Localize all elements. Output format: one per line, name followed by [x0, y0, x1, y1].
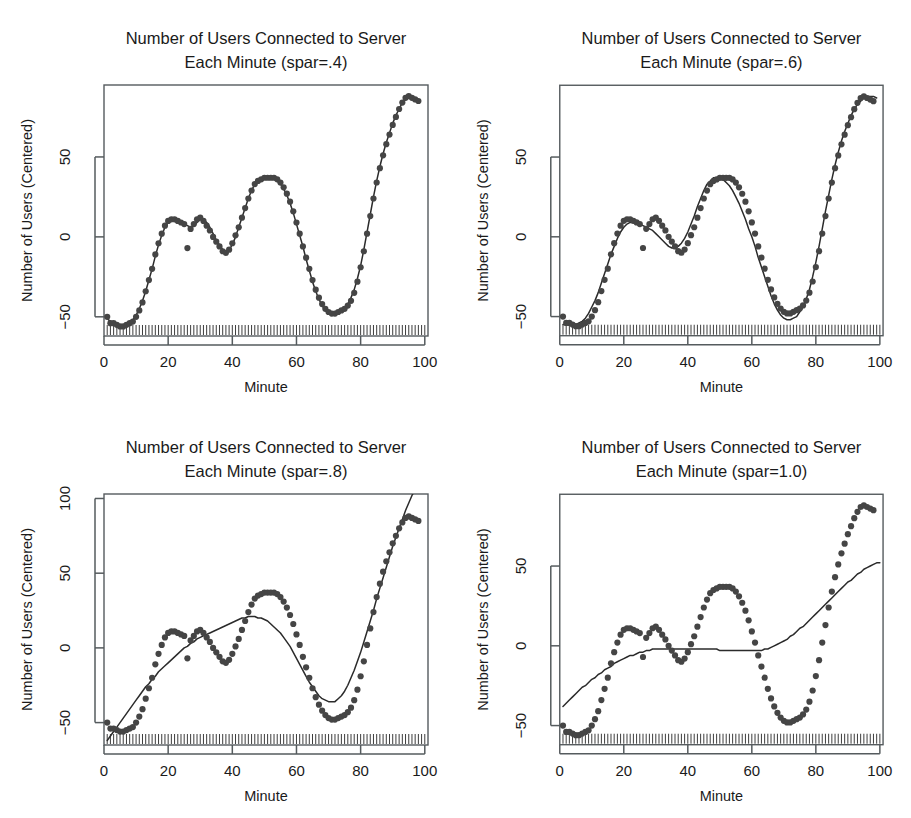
data-point [248, 601, 254, 607]
data-point [845, 122, 851, 128]
data-point [316, 295, 322, 301]
data-point [226, 247, 232, 253]
data-point [688, 232, 694, 238]
data-point [813, 264, 819, 270]
data-point [694, 624, 700, 630]
data-point [383, 141, 389, 147]
data-point [762, 675, 768, 681]
data-point [351, 697, 357, 703]
data-point [316, 702, 322, 708]
data-point [822, 213, 828, 219]
data-point [813, 673, 819, 679]
data-point [765, 686, 771, 692]
x-tick-label: 60 [288, 762, 305, 779]
data-point [829, 179, 835, 185]
y-tick-label: −50 [512, 713, 529, 738]
data-point [393, 533, 399, 539]
data-point [816, 657, 822, 663]
data-point [822, 622, 828, 628]
x-tick-label: 80 [808, 762, 825, 779]
data-point [688, 641, 694, 647]
chart-svg-1: Number of Users Connected to ServerEach … [456, 0, 911, 409]
data-point [146, 685, 152, 691]
y-tick-label: 50 [56, 565, 73, 582]
data-point [765, 277, 771, 283]
data-point [601, 277, 607, 283]
data-point [348, 705, 354, 711]
data-point [685, 649, 691, 655]
data-point [361, 658, 367, 664]
data-point [835, 152, 841, 158]
data-point [396, 525, 402, 531]
data-point [297, 642, 303, 648]
data-point [842, 132, 848, 138]
chart-title-line2: Each Minute (spar=.8) [185, 462, 348, 480]
x-tick-label: 100 [867, 762, 892, 779]
x-tick-label: 0 [556, 353, 564, 370]
x-tick-label: 80 [352, 353, 369, 370]
data-point [226, 657, 232, 663]
x-tick-label: 20 [615, 353, 632, 370]
data-point [739, 600, 745, 606]
data-point [605, 266, 611, 272]
data-point [605, 675, 611, 681]
data-point [284, 191, 290, 197]
y-tick-label: 50 [512, 558, 529, 575]
data-point [810, 278, 816, 284]
data-point [698, 614, 704, 620]
data-point [155, 240, 161, 246]
data-point [771, 294, 777, 300]
data-point [149, 675, 155, 681]
data-point [803, 298, 809, 304]
x-tick-label: 60 [744, 353, 761, 370]
data-point [207, 227, 213, 233]
data-point [242, 618, 248, 624]
data-point [806, 290, 812, 296]
data-point [611, 649, 617, 655]
data-point [303, 664, 309, 670]
chart-svg-0: Number of Users Connected to ServerEach … [0, 0, 456, 409]
data-point [845, 531, 851, 537]
data-point [640, 245, 646, 251]
x-axis-label: Minute [244, 788, 288, 804]
data-point [592, 716, 598, 722]
x-tick-label: 100 [867, 353, 892, 370]
data-point [139, 299, 145, 305]
data-point [832, 574, 838, 580]
data-point [287, 612, 293, 618]
x-tick-label: 80 [808, 353, 825, 370]
data-point [589, 313, 595, 319]
y-tick-label: 100 [56, 486, 73, 511]
data-point [245, 609, 251, 615]
rug-plot [563, 325, 880, 335]
x-tick-label: 0 [556, 762, 564, 779]
data-point [736, 593, 742, 599]
data-point [386, 131, 392, 137]
data-point [598, 288, 604, 294]
data-point [374, 594, 380, 600]
data-point [374, 179, 380, 185]
data-point [159, 642, 165, 648]
data-point [746, 208, 752, 214]
data-point [835, 561, 841, 567]
x-tick-label: 40 [679, 762, 696, 779]
data-point [293, 219, 299, 225]
data-point [306, 675, 312, 681]
data-point [589, 722, 595, 728]
data-point [361, 248, 367, 254]
data-point [701, 195, 707, 201]
chart-svg-3: Number of Users Connected to ServerEach … [456, 409, 911, 818]
y-tick-label: 0 [512, 642, 529, 650]
data-point [768, 695, 774, 701]
x-tick-label: 100 [412, 762, 437, 779]
y-axis-label: Number of Users (Centered) [475, 528, 491, 710]
data-point [287, 199, 293, 205]
rug-plot [563, 734, 880, 744]
data-point [370, 195, 376, 201]
data-point [742, 608, 748, 614]
data-point [207, 639, 213, 645]
data-point [313, 287, 319, 293]
data-point [691, 224, 697, 230]
chart-panel-3: Number of Users Connected to ServerEach … [456, 409, 911, 818]
x-tick-label: 0 [100, 353, 108, 370]
